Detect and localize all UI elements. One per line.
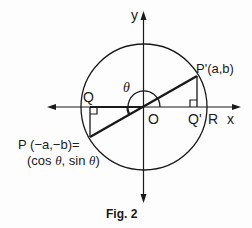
y-axis-up-arrow-icon [141,11,147,20]
trig-suffix: ) [95,153,99,168]
theta-label: θ [123,81,130,95]
x-axis-label: x [227,112,234,126]
trig-mid: , sin [62,153,89,168]
point-qprime-label: Q' [188,112,202,126]
figure-caption: Fig. 2 [106,208,137,220]
trig-prefix: (cos [27,153,55,168]
point-p-label: P (−a,−b)= (cos θ, sin θ) [18,138,100,167]
y-axis-down-arrow-icon [141,194,147,203]
right-angle-marker-q [90,107,97,114]
point-q-label: Q [83,90,94,104]
origin-label: O [148,112,159,126]
x-axis-right-arrow-icon [232,104,241,110]
point-p-coords: P (−a,−b)= [18,138,100,151]
unit-circle-figure: y x O Q Q' R P'(a,b) θ P (−a,−b)= (cos θ… [0,0,252,228]
x-axis-left-arrow-icon [47,104,56,110]
point-r-label: R [208,112,218,126]
point-p-trig: (cos θ, sin θ) [27,154,100,167]
y-axis-label: y [131,8,138,22]
right-angle-marker-qprime [190,100,197,107]
point-pprime-label: P'(a,b) [196,62,234,75]
